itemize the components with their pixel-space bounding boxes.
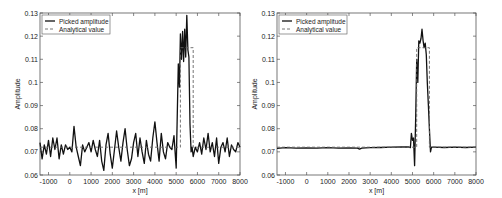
y-tick-label: 0.08 [261,125,275,132]
x-tick-label: 1000 [320,178,336,185]
x-tick-label: 2000 [341,178,357,185]
legend: Picked amplitudeAnalytical value [279,15,347,34]
y-tick-label: 0.07 [261,148,275,155]
y-tick-label: 0.08 [24,125,38,132]
legend-entry: Picked amplitude [296,18,346,26]
right-amplitude-chart: 0.060.070.080.090.10.110.120.13-10000100… [251,0,502,198]
y-tick-label: 0.1 [265,79,275,86]
y-tick-label: 0.09 [24,102,38,109]
x-tick-label: 2000 [105,178,121,185]
y-tick-label: 0.07 [24,148,38,155]
y-tick-label: 0.09 [261,102,275,109]
x-tick-label: 7000 [211,178,227,185]
x-tick-label: 8000 [232,178,248,185]
x-tick-label: 3000 [362,178,378,185]
legend: Picked amplitudeAnalytical value [42,15,110,34]
y-tick-label: 0.06 [24,172,38,179]
y-tick-label: 0.06 [261,172,275,179]
x-tick-label: -1000 [277,178,295,185]
legend-entry: Picked amplitude [59,18,109,26]
x-tick-label: 5000 [168,178,184,185]
y-tick-label: 0.13 [24,10,38,17]
x-tick-label: 3000 [126,178,142,185]
x-tick-label: 0 [305,178,309,185]
legend-entry: Analytical value [59,26,105,34]
x-tick-label: -1000 [40,178,58,185]
x-tick-label: 7000 [447,178,463,185]
legend-entry: Analytical value [296,26,342,34]
x-tick-label: 5000 [405,178,421,185]
left-chart-panel: 0.060.070.080.090.10.110.120.13-10000100… [0,0,251,198]
x-tick-label: 1000 [83,178,99,185]
left-amplitude-chart: 0.060.070.080.090.10.110.120.13-10000100… [0,0,251,198]
x-tick-label: 8000 [468,178,484,185]
x-tick-label: 6000 [190,178,206,185]
right-chart-panel: 0.060.070.080.090.10.110.120.13-10000100… [251,0,502,198]
x-tick-label: 4000 [147,178,163,185]
y-tick-label: 0.1 [28,79,38,86]
y-tick-label: 0.13 [261,10,275,17]
x-axis-label: x [m] [132,187,147,195]
y-tick-label: 0.12 [24,33,38,40]
x-tick-label: 4000 [384,178,400,185]
y-tick-label: 0.11 [262,56,275,63]
y-tick-label: 0.12 [261,33,275,40]
x-tick-label: 0 [68,178,72,185]
x-axis-label: x [m] [369,187,384,195]
y-axis-label: Amplitude [251,78,259,109]
y-tick-label: 0.11 [25,56,38,63]
x-tick-label: 6000 [426,178,442,185]
y-axis-label: Amplitude [14,78,22,109]
plot-frame [277,13,476,175]
